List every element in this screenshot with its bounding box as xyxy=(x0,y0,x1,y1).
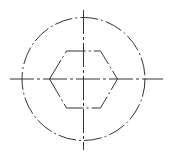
technical-drawing xyxy=(0,0,174,159)
